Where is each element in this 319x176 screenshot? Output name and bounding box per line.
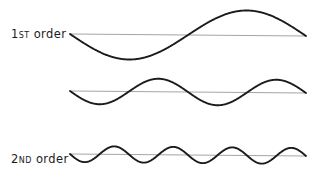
waveform-first-order bbox=[0, 0, 319, 70]
sine-curve-third-order bbox=[70, 146, 306, 163]
waveform-third-order bbox=[0, 125, 319, 176]
sine-curve-first-order bbox=[70, 11, 306, 60]
order-row-third: 3RDorder bbox=[0, 125, 319, 176]
waveform-second-order bbox=[0, 70, 319, 125]
order-row-first: 1STorder bbox=[0, 0, 319, 70]
sine-curve-second-order bbox=[70, 79, 306, 106]
order-row-second: 2NDorder bbox=[0, 70, 319, 125]
harmonic-orders-figure: 1STorder 2NDorder 3RDorder bbox=[0, 0, 319, 176]
